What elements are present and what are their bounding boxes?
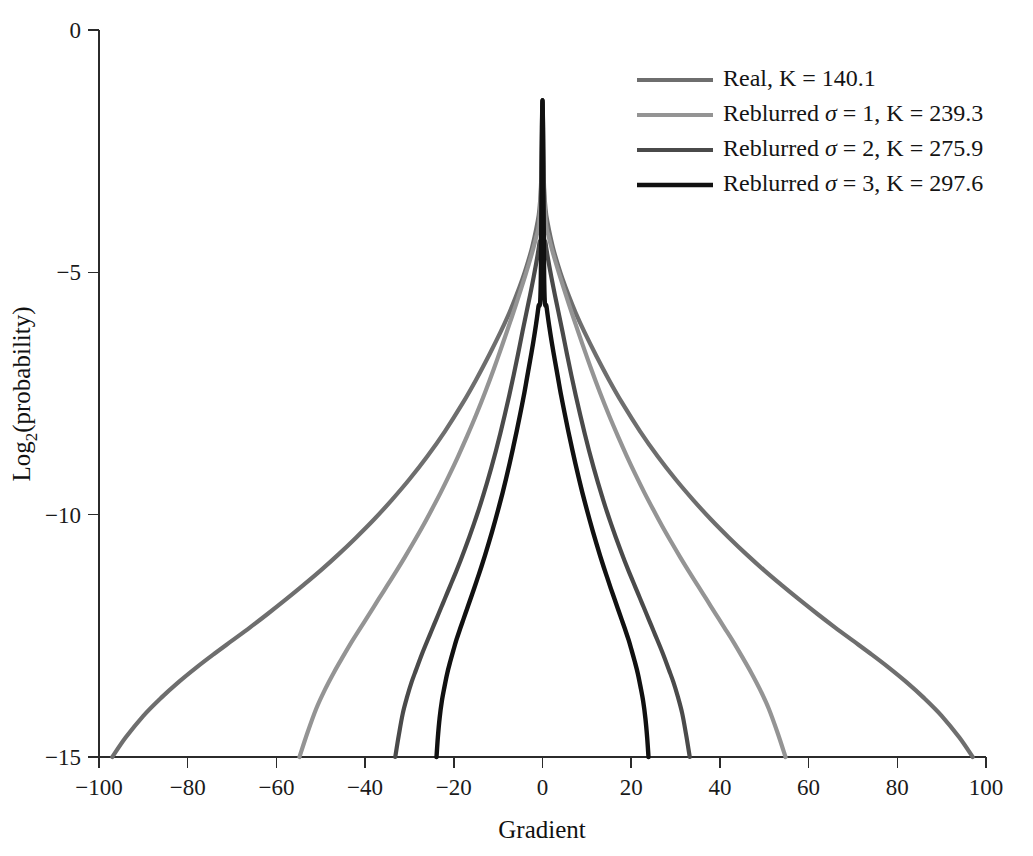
x-tick-label: 20 [620, 775, 643, 800]
x-tick-label: −20 [436, 775, 472, 800]
x-tick-label: 60 [797, 775, 820, 800]
y-axis-title: Log2(probability) [8, 306, 41, 481]
x-tick-label: 80 [886, 775, 909, 800]
x-tick-label: 100 [969, 775, 1004, 800]
y-axis-title-base: Log [8, 441, 35, 482]
x-axis-ticks: −100−80−60−40−20020406080100 [75, 757, 1003, 800]
plot-svg: −100−80−60−40−20020406080100 0−5−10−15 G… [0, 0, 1033, 856]
y-tick-label: −10 [45, 503, 81, 528]
x-tick-label: −80 [170, 775, 206, 800]
series-group [112, 100, 972, 757]
y-axis-title-rest: (probability) [8, 306, 36, 432]
x-tick-label: 40 [708, 775, 731, 800]
y-tick-label: −5 [57, 260, 81, 285]
x-axis-title: Gradient [498, 816, 586, 843]
y-axis-title-sub: 2 [22, 433, 41, 442]
legend-label-3: Reblurred σ = 2, K = 275.9 [723, 135, 983, 161]
legend: Real, K = 140.1Reblurred σ = 1, K = 239.… [637, 65, 983, 196]
x-tick-label: 0 [537, 775, 549, 800]
legend-label-2: Reblurred σ = 1, K = 239.3 [723, 100, 983, 126]
legend-label-4: Reblurred σ = 3, K = 297.6 [723, 170, 983, 196]
x-tick-label: −60 [258, 775, 294, 800]
x-tick-label: −40 [347, 775, 383, 800]
y-axis-ticks: 0−5−10−15 [45, 18, 99, 770]
x-tick-label: −100 [75, 775, 122, 800]
y-tick-label: −15 [45, 745, 81, 770]
legend-label-1: Real, K = 140.1 [723, 65, 876, 91]
gradient-probability-chart: −100−80−60−40−20020406080100 0−5−10−15 G… [0, 0, 1033, 856]
y-tick-label: 0 [70, 18, 82, 43]
svg-text:Log2(probability): Log2(probability) [8, 306, 41, 481]
